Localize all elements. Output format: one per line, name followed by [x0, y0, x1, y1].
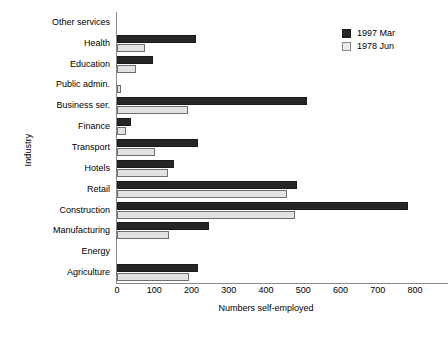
legend-item: 1978 Jun	[342, 41, 395, 51]
bar-series2	[117, 85, 121, 93]
legend-label: 1978 Jun	[357, 41, 394, 51]
bar-group	[117, 220, 415, 241]
bar-group	[117, 262, 415, 283]
bar-group	[117, 179, 415, 200]
x-tick-label: 100	[147, 285, 162, 295]
category-label: Manufacturing	[32, 220, 114, 241]
bar-series2	[117, 106, 188, 114]
category-label: Energy	[32, 241, 114, 262]
legend-swatch-icon	[342, 42, 351, 51]
x-tick-label: 400	[258, 285, 273, 295]
bar-group	[117, 54, 415, 75]
bar-group	[117, 116, 415, 137]
category-label: Construction	[32, 200, 114, 221]
category-label: Business ser.	[32, 95, 114, 116]
bar-series1	[117, 264, 198, 272]
category-axis-labels: Other servicesHealthEducationPublic admi…	[32, 12, 114, 283]
bar-group	[117, 137, 415, 158]
category-label: Retail	[32, 179, 114, 200]
bar-series2	[117, 273, 189, 281]
x-axis-line	[116, 283, 448, 284]
bar-series1	[117, 181, 297, 189]
x-tick-label: 500	[296, 285, 311, 295]
chart-legend: 1997 Mar1978 Jun	[342, 28, 395, 51]
bar-series1	[117, 97, 307, 105]
bar-series2	[117, 44, 145, 52]
legend-label: 1997 Mar	[357, 28, 395, 38]
bar-series1	[117, 222, 209, 230]
legend-item: 1997 Mar	[342, 28, 395, 38]
bar-group	[117, 241, 415, 262]
bar-series1	[117, 160, 174, 168]
bar-series2	[117, 169, 168, 177]
bar-group	[117, 158, 415, 179]
category-label: Hotels	[32, 158, 114, 179]
bar-series2	[117, 211, 295, 219]
bar-group	[117, 75, 415, 96]
bar-group	[117, 200, 415, 221]
bar-series2	[117, 65, 136, 73]
x-axis-tick-labels: 0100200300400500600700800	[117, 285, 415, 299]
x-tick-label: 600	[333, 285, 348, 295]
category-label: Other services	[32, 12, 114, 33]
bar-series1	[117, 139, 198, 147]
bar-series2	[117, 127, 126, 135]
bar-series1	[117, 202, 408, 210]
category-label: Finance	[32, 116, 114, 137]
plot-area	[117, 12, 415, 283]
category-label: Transport	[32, 137, 114, 158]
x-tick-label: 300	[221, 285, 236, 295]
bar-series1	[117, 118, 131, 126]
x-tick-label: 200	[184, 285, 199, 295]
category-label: Public admin.	[32, 75, 114, 96]
bar-series2	[117, 190, 287, 198]
bar-series2	[117, 231, 169, 239]
bar-series2	[117, 148, 155, 156]
category-label: Health	[32, 33, 114, 54]
bar-series1	[117, 35, 196, 43]
x-tick-label: 0	[114, 285, 119, 295]
category-label: Education	[32, 54, 114, 75]
legend-swatch-icon	[342, 29, 351, 38]
x-axis-title: Numbers self-employed	[117, 303, 415, 313]
bar-series1	[117, 56, 153, 64]
x-tick-label: 800	[407, 285, 422, 295]
category-label: Agriculture	[32, 262, 114, 283]
bar-group	[117, 95, 415, 116]
x-tick-label: 700	[370, 285, 385, 295]
